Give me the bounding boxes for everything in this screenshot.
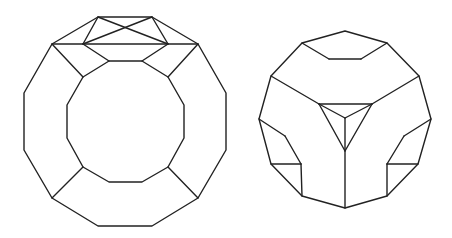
edge-line <box>387 136 404 164</box>
edge-line <box>142 44 168 61</box>
edge-line <box>271 76 319 104</box>
edge-line <box>98 17 168 44</box>
edge-line <box>83 44 109 61</box>
left-polyhedron-figure <box>24 17 226 226</box>
edge-line <box>168 44 198 77</box>
edge-line <box>52 167 83 198</box>
edge-line <box>83 17 152 44</box>
polyhedra-diagram <box>0 0 452 238</box>
edge-line <box>302 43 329 59</box>
right-polyhedron-figure <box>259 31 431 208</box>
edge-line <box>301 164 302 196</box>
edge-line <box>372 76 419 104</box>
edge-line <box>52 44 83 77</box>
edge-line <box>361 43 387 59</box>
inner-polygon <box>67 61 184 182</box>
edge-line <box>285 136 301 164</box>
edge-line <box>168 167 198 198</box>
